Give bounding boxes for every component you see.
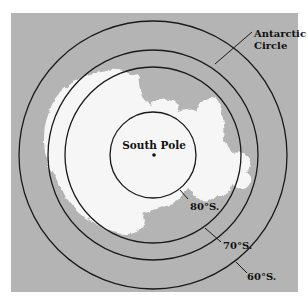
antarctic-circle-label-line2: Circle (254, 40, 287, 51)
latitude-80-label: 80°S. (190, 201, 219, 212)
latitude-70-label: 70°S. (223, 240, 252, 251)
antarctic-circle-label-line1: Antarctic (253, 28, 306, 39)
south-pole-label: South Pole (122, 139, 186, 151)
south-pole-dot (152, 153, 156, 157)
antarctica-map: South Pole Antarctic Circle 80°S. 70°S. … (0, 0, 308, 299)
latitude-60-label: 60°S. (247, 271, 276, 282)
